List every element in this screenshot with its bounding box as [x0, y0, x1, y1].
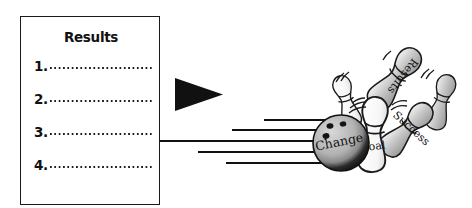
play-triangle-arrow-icon: [175, 78, 223, 111]
bowling-ball: Change: [313, 115, 369, 171]
diagram-canvas: Results 1. 2. 3. 4.: [0, 0, 472, 208]
bowling-scene: Results Success: [0, 0, 472, 208]
